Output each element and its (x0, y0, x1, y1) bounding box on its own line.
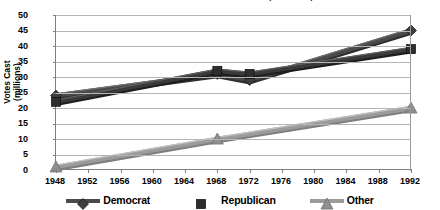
square-marker-icon (194, 198, 208, 210)
y-tick-mark (53, 124, 56, 125)
y-tick-label: 10 (18, 135, 28, 144)
gridline (56, 155, 411, 156)
gridline (56, 77, 411, 78)
series-line (56, 31, 411, 96)
x-tick-mark (346, 169, 347, 173)
legend-label: Republican (221, 194, 276, 206)
legend-item-democrat[interactable]: Democrat (66, 194, 150, 206)
y-tick-mark (53, 77, 56, 78)
y-axis-title-line-1: Votes Cast (2, 34, 12, 130)
series-line (56, 108, 411, 167)
diamond-marker-icon (76, 198, 90, 210)
legend-line-swatch (310, 198, 344, 203)
x-tick-mark (217, 169, 218, 173)
chart-legend: DemocratRepublicanOther (0, 191, 440, 209)
y-tick-mark (53, 93, 56, 94)
gridline (56, 46, 411, 47)
x-tick-mark (121, 169, 122, 173)
y-tick-mark (53, 46, 56, 47)
y-tick-label: 0 (23, 166, 28, 175)
x-tick-mark (282, 169, 283, 173)
chart-title: U.S. Presidential Election Votes Cast (1… (0, 0, 440, 1)
data-point-marker (213, 66, 222, 75)
x-tick-mark (250, 169, 251, 173)
x-tick-mark (185, 169, 186, 173)
gridline (56, 139, 411, 140)
gridline (56, 15, 411, 16)
gridline (56, 124, 411, 125)
series-democrat (51, 25, 417, 101)
x-tick-mark (379, 169, 380, 173)
plot-right-border (410, 15, 411, 171)
y-tick-label: 15 (18, 119, 28, 128)
triangle-marker-icon (320, 198, 334, 210)
series-other (50, 102, 417, 172)
legend-label: Other (347, 194, 374, 206)
y-tick-label: 35 (18, 57, 28, 66)
y-tick-label: 30 (18, 73, 28, 82)
legend-item-other[interactable]: Other (310, 194, 374, 206)
y-tick-mark (53, 15, 56, 16)
x-tick-mark (88, 169, 89, 173)
gridline (56, 31, 411, 32)
x-tick-mark (314, 169, 315, 173)
legend-item-republican[interactable]: Republican (184, 194, 276, 206)
legend-label: Democrat (103, 194, 150, 206)
gridline (56, 108, 411, 109)
data-point-marker (52, 97, 61, 106)
y-tick-mark (53, 31, 56, 32)
y-tick-label: 25 (18, 88, 28, 97)
y-tick-mark (53, 108, 56, 109)
y-tick-mark (53, 62, 56, 63)
chart-container: U.S. Presidential Election Votes Cast (1… (0, 0, 440, 210)
plot-area (55, 15, 410, 170)
y-tick-mark (53, 155, 56, 156)
y-tick-mark (53, 139, 56, 140)
x-tick-mark (411, 169, 412, 173)
y-tick-label: 40 (18, 42, 28, 51)
gridline (56, 62, 411, 63)
legend-line-swatch (184, 198, 218, 203)
gridline (56, 93, 411, 94)
y-tick-label: 50 (18, 11, 28, 20)
x-tick-label: 1992 (390, 176, 430, 186)
x-tick-mark (56, 169, 57, 173)
y-tick-label: 45 (18, 26, 28, 35)
y-tick-label: 20 (18, 104, 28, 113)
x-tick-mark (153, 169, 154, 173)
series-republican (52, 45, 416, 107)
y-tick-label: 5 (23, 150, 28, 159)
legend-line-swatch (66, 198, 100, 203)
